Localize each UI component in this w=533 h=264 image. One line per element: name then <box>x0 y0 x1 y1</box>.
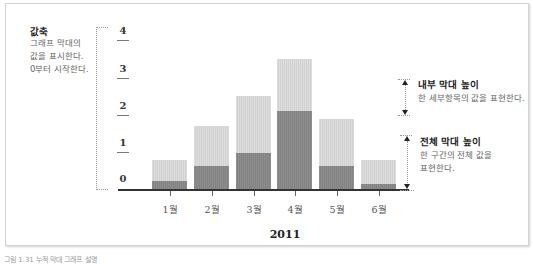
outer-bar <box>361 160 396 190</box>
inner-bar <box>277 111 312 190</box>
arrow-down-icon <box>402 110 408 115</box>
x-tick-label: 5월 <box>319 202 355 216</box>
y-tick-mark-4 <box>117 40 129 41</box>
y-tick-mark-3 <box>117 78 129 79</box>
outer-bar <box>152 160 187 190</box>
outer-bar-annotation-text: 한 구간의 전체 값을 표현한다. <box>420 149 492 175</box>
x-tick-label: 6월 <box>361 202 397 216</box>
x-tick-label: 3월 <box>236 202 272 216</box>
y-tick-mark-1 <box>117 152 129 153</box>
value-axis-annotation-text: 그래프 막대의 값을 표시한다. 0부터 시작한다. <box>30 37 89 76</box>
x-tick-label: 1월 <box>152 202 188 216</box>
x-tick-label: 4월 <box>277 202 313 216</box>
inner-bar <box>319 166 354 190</box>
outer-bar <box>236 96 271 190</box>
outer-bar-dimension-line <box>407 141 408 185</box>
y-tick-mark-2 <box>117 115 129 116</box>
value-axis-bracket-bottom <box>96 189 108 190</box>
chart-title: 2011 <box>255 228 315 241</box>
outer-bar <box>277 59 312 190</box>
outer-bar <box>194 126 229 190</box>
outer-bar-annotation-title: 전체 막대 높이 <box>420 134 481 148</box>
y-tick-label-3: 3 <box>113 63 133 74</box>
y-tick-label-4: 4 <box>113 25 133 36</box>
inner-bar <box>194 166 229 190</box>
outer-bar <box>319 119 354 190</box>
outer-bar-bracket-bottom <box>400 190 414 191</box>
y-tick-label-1: 1 <box>113 137 133 148</box>
inner-bar-annotation-text: 한 세부항목의 값을 표현한다. <box>418 92 525 105</box>
inner-bar-annotation-title: 내부 막대 높이 <box>418 77 479 91</box>
x-tick-mark <box>337 191 338 196</box>
x-tick-mark <box>212 191 213 196</box>
inner-bar <box>236 153 271 191</box>
y-tick-label-0: 0 <box>113 173 133 184</box>
arrow-down-icon <box>404 184 410 189</box>
x-tick-mark <box>254 191 255 196</box>
y-tick-label-2: 2 <box>113 100 133 111</box>
value-axis-annotation-title: 값축 <box>30 24 48 38</box>
x-tick-mark <box>379 191 380 196</box>
x-axis-baseline <box>118 189 409 191</box>
x-tick-mark <box>295 191 296 196</box>
value-axis-bracket-top <box>96 27 108 28</box>
value-axis-bracket <box>96 27 97 190</box>
x-tick-label: 2월 <box>194 202 230 216</box>
inner-bar-dimension-line <box>405 85 406 110</box>
inner-bar-bracket-bottom <box>398 115 410 116</box>
figure-caption: 그림 1.31 누적 막대 그래프 설명 <box>4 254 97 264</box>
x-tick-mark <box>170 191 171 196</box>
